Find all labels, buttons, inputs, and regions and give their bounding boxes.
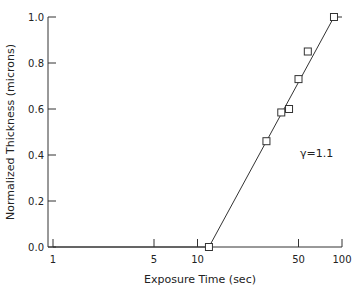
- data-point-square: [263, 138, 270, 145]
- x-tick-label: 5: [151, 254, 157, 265]
- y-tick-label: 0.0: [28, 242, 44, 253]
- data-point-square: [330, 14, 337, 21]
- y-axis-ticks: 0.00.20.40.60.81.0: [28, 12, 56, 253]
- gamma-annotation: γ=1.1: [300, 147, 333, 160]
- chart: 0.00.20.40.60.81.0 151050100 Exposure Ti…: [0, 0, 360, 291]
- x-tick-label: 100: [332, 254, 351, 265]
- data-point-square: [205, 244, 212, 251]
- fit-polyline: [53, 17, 342, 247]
- y-tick-label: 0.4: [28, 150, 44, 161]
- data-point-square: [295, 76, 302, 83]
- fit-line: [53, 17, 342, 247]
- y-tick-label: 1.0: [28, 12, 44, 23]
- y-tick-label: 0.6: [28, 104, 44, 115]
- data-point-square: [304, 48, 311, 55]
- y-axis-label: Normalized Thickness (microns): [4, 44, 17, 220]
- x-tick-label: 10: [191, 254, 204, 265]
- axes: [48, 17, 342, 247]
- x-tick-label: 1: [50, 254, 56, 265]
- y-tick-label: 0.2: [28, 196, 44, 207]
- x-tick-label: 50: [292, 254, 305, 265]
- y-tick-label: 0.8: [28, 58, 44, 69]
- x-axis-ticks: 151050100: [50, 239, 352, 265]
- data-point-square: [278, 109, 285, 116]
- x-axis-label: Exposure Time (sec): [144, 273, 256, 286]
- data-point-square: [286, 106, 293, 113]
